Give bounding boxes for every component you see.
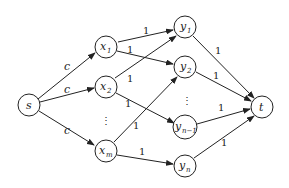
svg-text:x: x <box>100 80 107 93</box>
svg-text:t: t <box>259 101 264 114</box>
edge-label-xm-yn: 1 <box>139 146 145 157</box>
node-y1: y 1 <box>174 16 196 38</box>
svg-text:x: x <box>99 144 106 157</box>
node-t: t <box>251 96 273 118</box>
node-x1: x 1 <box>95 36 117 58</box>
flow-network-diagram: c c c 1 1 1 1 1 1 1 1 1 1 s x 1 x 2 ⋮ x … <box>0 0 289 188</box>
node-y2: y 2 <box>174 56 196 78</box>
edge-label-s-xm: c <box>64 124 70 137</box>
edge-label-x2-y1: 1 <box>127 73 133 84</box>
svg-text:2: 2 <box>106 87 112 95</box>
edge-label-y2-t: 1 <box>213 70 219 81</box>
edge-xm-y2 <box>114 77 177 142</box>
svg-text:n: n <box>186 166 191 174</box>
y-column-ellipsis: ⋮ <box>182 95 192 106</box>
node-s: s <box>18 94 40 116</box>
edge-label-y1-t: 1 <box>215 45 221 56</box>
node-yn-minus-1: y n−1 <box>173 115 197 139</box>
node-x2: x 2 <box>95 76 117 98</box>
edge-label-x2-yn1: 1 <box>125 98 131 109</box>
x-column-ellipsis: ⋮ <box>101 115 111 126</box>
edge-label-x1-y1: 1 <box>143 25 149 36</box>
svg-text:1: 1 <box>107 47 111 55</box>
node-yn: y n <box>174 155 196 177</box>
svg-text:m: m <box>106 151 113 159</box>
svg-text:y: y <box>179 20 187 33</box>
svg-text:y: y <box>178 159 186 172</box>
edge-y1-t <box>193 36 254 98</box>
svg-text:x: x <box>100 40 107 53</box>
edge-label-s-x1: c <box>64 60 70 73</box>
edge-label-xm-y2: 1 <box>133 120 139 131</box>
svg-text:s: s <box>26 99 32 112</box>
svg-text:y: y <box>174 120 182 133</box>
edge-label-s-x2: c <box>64 83 70 96</box>
svg-text:1: 1 <box>187 27 191 35</box>
edge-x2-y1 <box>115 36 176 78</box>
edge-label-x1-y2: 1 <box>127 44 133 55</box>
svg-text:n−1: n−1 <box>182 127 197 135</box>
svg-text:2: 2 <box>186 67 192 75</box>
edge-label-yn-t: 1 <box>221 137 227 148</box>
edge-label-yn1-t: 1 <box>218 102 224 113</box>
svg-text:y: y <box>179 60 187 73</box>
node-xm: x m <box>95 140 117 162</box>
